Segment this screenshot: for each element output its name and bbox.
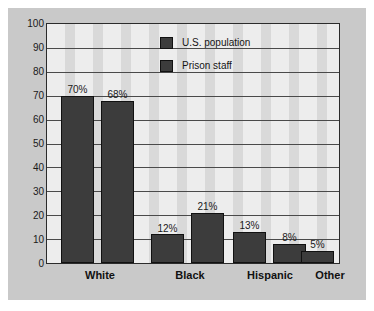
legend-item-prison-staff: Prison staff <box>160 54 286 77</box>
bar-black-prison-staff <box>191 213 224 263</box>
bar-value-label: 3% <box>339 244 340 255</box>
y-tick-label: 50 <box>10 139 44 149</box>
y-tick-label: 40 <box>10 163 44 173</box>
bar-value-label: 68% <box>101 89 134 100</box>
y-tick-label: 70 <box>10 91 44 101</box>
y-tick-label: 0 <box>10 259 44 269</box>
y-tick-label: 20 <box>10 211 44 221</box>
bar-other-prison-staff <box>339 256 340 263</box>
chart-legend: U.S. population Prison staff <box>160 31 286 77</box>
x-category-label-other: Other <box>290 269 370 281</box>
bar-white-us-population <box>61 96 94 263</box>
bar-value-label: 70% <box>61 84 94 95</box>
bar-white-prison-staff <box>101 101 134 264</box>
y-tick-label: 10 <box>10 235 44 245</box>
bar-hispanic-us-population <box>233 232 266 263</box>
y-tick-label: 90 <box>10 43 44 53</box>
x-category-label-black: Black <box>150 269 230 281</box>
legend-label: U.S. population <box>182 37 250 48</box>
legend-swatch-icon <box>160 37 173 49</box>
bar-value-label: 5% <box>301 239 334 250</box>
bar-value-label: 12% <box>151 223 184 234</box>
y-tick-label: 60 <box>10 115 44 125</box>
bar-value-label: 13% <box>233 220 266 231</box>
bar-black-us-population <box>151 234 184 263</box>
y-tick-label: 30 <box>10 187 44 197</box>
legend-swatch-icon <box>160 60 173 72</box>
chart-figure: 100 90 80 70 60 50 40 30 20 10 0 <box>0 0 374 311</box>
y-tick-label: 100 <box>10 19 44 29</box>
legend-item-us-population: U.S. population <box>160 31 286 54</box>
x-category-label-white: White <box>60 269 140 281</box>
bar-other-us-population <box>301 251 334 263</box>
legend-label: Prison staff <box>182 60 232 71</box>
bar-value-label: 21% <box>191 201 224 212</box>
y-tick-label: 80 <box>10 67 44 77</box>
